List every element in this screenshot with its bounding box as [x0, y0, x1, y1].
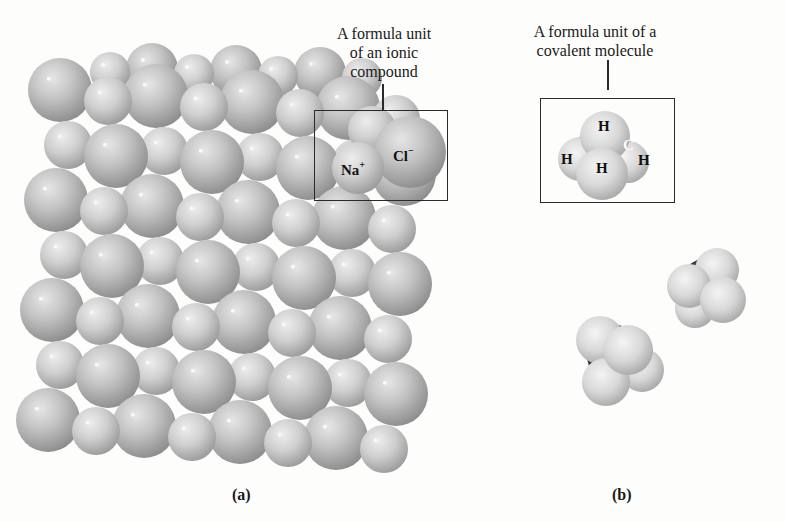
ionic-callout-line-3: compound — [318, 62, 450, 81]
hydrogen-label-left: H — [561, 151, 573, 168]
methane-molecule-1 — [576, 316, 664, 406]
ionic-callout-leader — [382, 84, 384, 111]
hydrogen-label-right: H — [638, 152, 650, 169]
hydrogen-label-top: H — [598, 118, 610, 135]
ionic-formula-unit-box — [314, 110, 448, 201]
hydrogen-label-front: H — [596, 160, 608, 177]
ionic-callout-line-2: of an ionic — [318, 43, 450, 62]
ionic-callout-line-1: A formula unit — [318, 24, 450, 43]
methane-molecule-2 — [667, 248, 746, 328]
figure: A formula unit of an ionic compound Na+ … — [0, 0, 786, 522]
sodium-ion-label: Na+ — [341, 160, 365, 179]
covalent-callout-text: A formula unit of a covalent molecule — [520, 22, 670, 60]
covalent-callout-line-1: A formula unit of a — [520, 22, 670, 41]
panel-b-label: (b) — [612, 486, 632, 504]
covalent-callout-leader — [607, 60, 609, 90]
covalent-callout-line-2: covalent molecule — [520, 41, 670, 60]
ionic-callout-text: A formula unit of an ionic compound — [318, 24, 450, 81]
carbon-label: C — [623, 137, 634, 154]
chloride-ion-label: Cl− — [393, 146, 414, 165]
panel-a-label: (a) — [232, 486, 251, 504]
